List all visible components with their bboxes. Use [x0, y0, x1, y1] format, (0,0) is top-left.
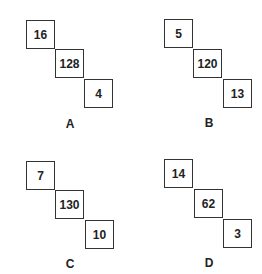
figure-label: A	[60, 117, 80, 131]
figure-c: 7 130 10 C	[0, 137, 131, 274]
top-box: 5	[164, 19, 193, 48]
bottom-box: 3	[223, 219, 252, 248]
figure-d: 14 62 3 D	[131, 137, 262, 274]
bottom-box: 4	[84, 79, 113, 108]
top-box: 16	[26, 20, 55, 49]
middle-box: 120	[193, 49, 222, 78]
figure-b: 5 120 13 B	[131, 0, 262, 137]
middle-box: 128	[55, 49, 84, 78]
figure-a: 16 128 4 A	[0, 0, 131, 137]
middle-box: 62	[194, 189, 223, 218]
figure-label: C	[60, 257, 80, 271]
figure-label: D	[199, 256, 219, 270]
top-box: 7	[26, 161, 55, 190]
figure-label: B	[199, 116, 219, 130]
bottom-box: 13	[223, 79, 252, 108]
middle-box: 130	[55, 190, 84, 219]
bottom-box: 10	[85, 220, 114, 249]
top-box: 14	[164, 159, 193, 188]
